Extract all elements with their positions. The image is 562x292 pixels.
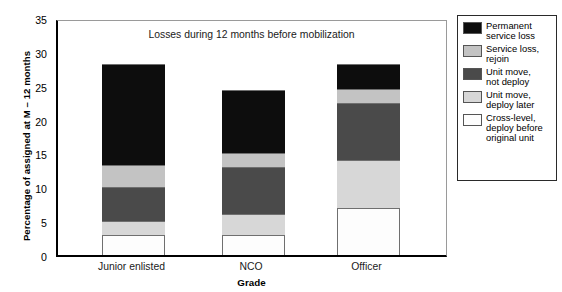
bar-officer[interactable] bbox=[337, 64, 400, 255]
bar-nco[interactable] bbox=[222, 90, 285, 255]
bar-segment bbox=[102, 235, 165, 255]
legend-item-label: Permanent service loss bbox=[486, 21, 535, 41]
y-axis-tick-label: 35 bbox=[25, 15, 47, 25]
y-axis-tick-label: 15 bbox=[25, 150, 47, 160]
legend-item[interactable]: Permanent service loss bbox=[463, 21, 552, 41]
legend-swatch-icon bbox=[463, 45, 482, 57]
x-axis-tick-label: NCO bbox=[191, 261, 311, 272]
bar-segment bbox=[337, 89, 400, 103]
bar-segment bbox=[102, 165, 165, 187]
bar-segment bbox=[102, 221, 165, 235]
y-axis-tick-label: 30 bbox=[25, 49, 47, 59]
y-axis-tick-label: 25 bbox=[25, 83, 47, 93]
legend-swatch-icon bbox=[463, 68, 482, 80]
x-axis-tick-label: Junior enlisted bbox=[72, 261, 192, 272]
y-axis-tick-label: 20 bbox=[25, 117, 47, 127]
legend-item-label: Unit move, not deploy bbox=[486, 67, 531, 87]
legend-swatch-icon bbox=[463, 114, 482, 126]
y-axis-tick-label: 10 bbox=[25, 184, 47, 194]
legend-item[interactable]: Unit move, deploy later bbox=[463, 90, 552, 110]
bar-junior-enlisted[interactable] bbox=[102, 64, 165, 255]
bar-segment bbox=[222, 90, 285, 153]
y-axis-title: Percentage of assigned at M – 12 months bbox=[18, 0, 36, 292]
x-axis-title: Grade bbox=[56, 277, 447, 288]
bar-segment bbox=[222, 167, 285, 214]
bar-segment bbox=[102, 64, 165, 165]
bar-segment bbox=[337, 103, 400, 161]
bar-segment bbox=[222, 214, 285, 234]
bar-segment bbox=[337, 64, 400, 89]
bar-segment bbox=[222, 153, 285, 167]
chart-title: Losses during 12 months before mobilizat… bbox=[56, 29, 447, 40]
bar-segment bbox=[222, 235, 285, 255]
x-axis-tick-label: Officer bbox=[307, 261, 427, 272]
y-axis-tick-label: 0 bbox=[25, 252, 47, 262]
bar-segment bbox=[337, 160, 400, 207]
legend-item-label: Service loss, rejoin bbox=[486, 44, 539, 64]
plot-area bbox=[56, 20, 447, 257]
legend-swatch-icon bbox=[463, 91, 482, 103]
legend-item[interactable]: Cross-level, deploy before original unit bbox=[463, 113, 552, 144]
legend-swatch-icon bbox=[463, 22, 482, 34]
y-axis-tick-label: 5 bbox=[25, 218, 47, 228]
legend-item-label: Cross-level, deploy before original unit bbox=[486, 113, 543, 144]
legend-item[interactable]: Service loss, rejoin bbox=[463, 44, 552, 64]
legend: Permanent service lossService loss, rejo… bbox=[457, 15, 557, 181]
bar-segment bbox=[102, 187, 165, 221]
bar-segment bbox=[337, 208, 400, 255]
stacked-bar-chart: Percentage of assigned at M – 12 months … bbox=[0, 0, 562, 292]
legend-item-label: Unit move, deploy later bbox=[486, 90, 534, 110]
legend-item[interactable]: Unit move, not deploy bbox=[463, 67, 552, 87]
